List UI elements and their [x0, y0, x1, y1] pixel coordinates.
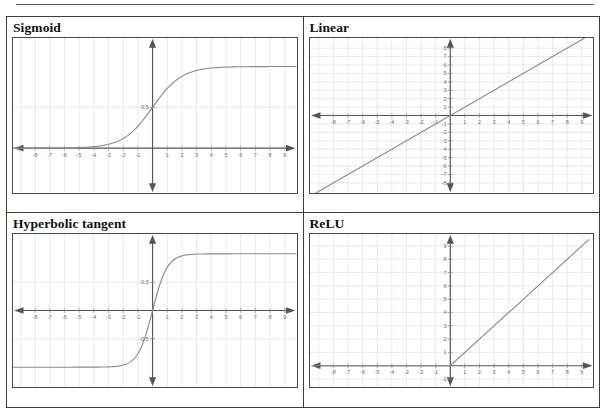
svg-text:-7: -7 [345, 369, 350, 375]
svg-text:6: 6 [443, 283, 446, 289]
svg-text:-3: -3 [106, 152, 111, 158]
svg-text:5: 5 [224, 314, 227, 320]
top-horizontal-rule [16, 4, 594, 5]
svg-text:-1: -1 [135, 314, 140, 320]
svg-text:3: 3 [492, 119, 495, 125]
svg-text:2: 2 [443, 96, 446, 102]
svg-text:1: 1 [463, 369, 466, 375]
svg-text:3: 3 [195, 314, 198, 320]
svg-text:7: 7 [551, 119, 554, 125]
svg-text:-2: -2 [441, 129, 446, 135]
svg-text:7: 7 [443, 269, 446, 275]
svg-text:6: 6 [536, 119, 539, 125]
svg-text:1: 1 [443, 349, 446, 355]
tick-marks [35, 107, 285, 150]
svg-text:-6: -6 [441, 163, 446, 169]
svg-text:8: 8 [269, 314, 272, 320]
svg-text:3: 3 [443, 87, 446, 93]
svg-text:-8: -8 [330, 369, 335, 375]
svg-text:3: 3 [492, 369, 495, 375]
svg-text:3: 3 [443, 322, 446, 328]
svg-text:8: 8 [443, 45, 446, 51]
svg-text:1: 1 [443, 104, 446, 110]
svg-text:9: 9 [283, 314, 286, 320]
svg-text:9: 9 [580, 119, 583, 125]
svg-text:7: 7 [254, 314, 257, 320]
svg-text:6: 6 [239, 152, 242, 158]
svg-text:7: 7 [254, 152, 257, 158]
svg-text:-5: -5 [77, 152, 82, 158]
plot-svg-linear: -8-7-6-5-4-3-2-112345678987654321-1-2-3-… [310, 38, 594, 193]
svg-text:-5: -5 [77, 314, 82, 320]
table-row: Hyperbolic tangent -8-7-6-5-4-3-2-112345… [7, 212, 600, 408]
svg-text:-4: -4 [91, 152, 96, 158]
svg-text:-3: -3 [403, 369, 408, 375]
svg-text:-6: -6 [62, 152, 67, 158]
svg-text:-2: -2 [418, 369, 423, 375]
plot-svg-sigmoid: -8-7-6-5-4-3-2-11234567890.5 [13, 38, 297, 193]
gridlines [13, 38, 297, 193]
svg-text:2: 2 [477, 119, 480, 125]
svg-text:-8: -8 [441, 180, 446, 186]
panel-cell-sigmoid: Sigmoid -8-7-6-5-4-3-2-11234567890.5 [7, 17, 304, 213]
svg-text:-7: -7 [47, 152, 52, 158]
svg-text:-6: -6 [360, 369, 365, 375]
svg-text:9: 9 [283, 152, 286, 158]
plot-linear: -8-7-6-5-4-3-2-112345678987654321-1-2-3-… [309, 37, 595, 194]
svg-text:4: 4 [443, 309, 446, 315]
svg-text:-2: -2 [121, 152, 126, 158]
activation-functions-table: Sigmoid -8-7-6-5-4-3-2-11234567890.5 Lin… [6, 16, 600, 408]
svg-text:-5: -5 [374, 369, 379, 375]
plot-relu: -8-7-6-5-4-3-2-1123456789987654321-1 [309, 233, 595, 388]
svg-text:-3: -3 [441, 138, 446, 144]
svg-text:-2: -2 [418, 119, 423, 125]
svg-text:-8: -8 [33, 152, 38, 158]
panel-cell-relu: ReLU -8-7-6-5-4-3-2-1123456789987654321-… [303, 212, 600, 408]
svg-text:2: 2 [180, 152, 183, 158]
svg-text:4: 4 [507, 369, 510, 375]
svg-text:1: 1 [166, 152, 169, 158]
svg-text:-5: -5 [441, 155, 446, 161]
svg-text:-2: -2 [121, 314, 126, 320]
svg-text:5: 5 [521, 369, 524, 375]
svg-text:8: 8 [269, 152, 272, 158]
svg-text:8: 8 [443, 256, 446, 262]
svg-text:-8: -8 [330, 119, 335, 125]
svg-text:-7: -7 [345, 119, 350, 125]
panel-cell-linear: Linear -8-7-6-5-4-3-2-112345678987654321… [303, 17, 600, 213]
panel-title-linear: Linear [310, 20, 595, 35]
panel-title-relu: ReLU [310, 216, 595, 231]
panel-cell-tanh: Hyperbolic tangent -8-7-6-5-4-3-2-112345… [7, 212, 304, 408]
axes [14, 234, 295, 385]
svg-text:5: 5 [443, 296, 446, 302]
svg-text:2: 2 [443, 336, 446, 342]
svg-text:-3: -3 [106, 314, 111, 320]
panel-title-sigmoid: Sigmoid [13, 20, 298, 35]
svg-text:5: 5 [224, 152, 227, 158]
svg-text:-4: -4 [441, 146, 446, 152]
plot-sigmoid: -8-7-6-5-4-3-2-11234567890.5 [12, 37, 298, 194]
svg-text:-1: -1 [441, 121, 446, 127]
svg-text:7: 7 [551, 369, 554, 375]
svg-text:2: 2 [180, 314, 183, 320]
svg-text:-1: -1 [433, 369, 438, 375]
plot-svg-tanh: -8-7-6-5-4-3-2-11234567890.5-0.5 [13, 234, 297, 387]
tick-labels: -8-7-6-5-4-3-2-11234567890.5 [33, 104, 287, 157]
svg-text:-5: -5 [374, 119, 379, 125]
svg-text:3: 3 [195, 152, 198, 158]
svg-text:-4: -4 [389, 119, 394, 125]
svg-text:4: 4 [443, 79, 446, 85]
svg-text:9: 9 [580, 369, 583, 375]
svg-text:-7: -7 [441, 172, 446, 178]
svg-text:9: 9 [443, 243, 446, 249]
svg-text:-4: -4 [91, 314, 96, 320]
panel-title-tanh: Hyperbolic tangent [13, 216, 298, 231]
svg-text:4: 4 [210, 314, 213, 320]
svg-text:4: 4 [507, 119, 510, 125]
svg-text:0.5: 0.5 [141, 104, 149, 110]
axes [14, 39, 295, 192]
plot-svg-relu: -8-7-6-5-4-3-2-1123456789987654321-1 [310, 234, 594, 387]
svg-text:0.5: 0.5 [141, 279, 149, 285]
axes [311, 234, 592, 385]
svg-text:-1: -1 [135, 152, 140, 158]
